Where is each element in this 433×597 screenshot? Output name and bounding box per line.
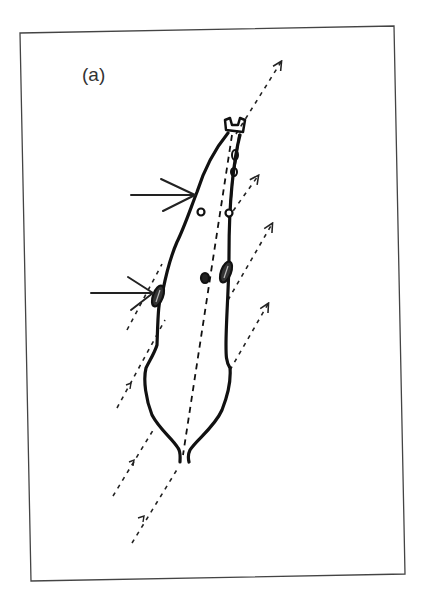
dashed-arrow-right-2 <box>228 224 272 300</box>
dashed-arrow-right-3 <box>230 304 268 370</box>
dashed-flow-arrows <box>113 62 281 543</box>
dashed-arrow-top <box>236 62 281 134</box>
chevron-icons <box>126 383 144 522</box>
figure-panel: (a) <box>0 0 433 597</box>
marker-center-spot <box>201 273 209 283</box>
arrow-upper <box>131 179 195 211</box>
marker-small-right <box>226 210 233 217</box>
solid-pointer-arrows <box>91 179 195 310</box>
panel-label: (a) <box>82 64 105 86</box>
arrow-lower <box>91 277 153 310</box>
dashed-arrow-left-3 <box>132 468 178 543</box>
line-drawing <box>0 0 433 597</box>
marker-small-left <box>198 209 205 216</box>
frame-border <box>20 26 405 581</box>
markers <box>150 209 235 309</box>
